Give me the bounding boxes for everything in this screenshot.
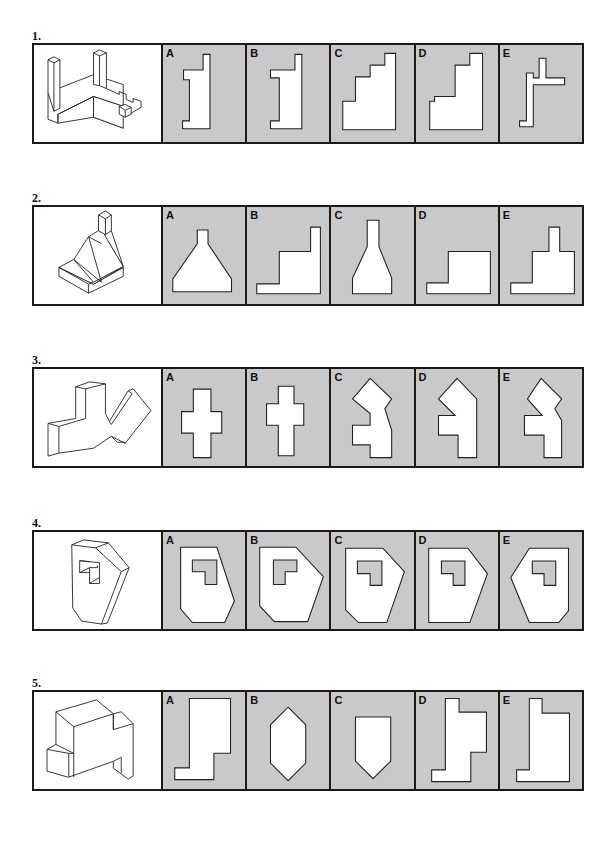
isometric-figure <box>34 207 161 304</box>
option-b[interactable]: B <box>247 369 331 466</box>
option-shape <box>331 532 413 629</box>
option-e[interactable]: E <box>500 532 582 629</box>
question-row: A B C D E <box>32 690 584 791</box>
option-shape <box>416 369 498 466</box>
option-shape <box>247 207 329 304</box>
question-row: A A B C D E <box>32 43 584 144</box>
option-shape <box>163 45 245 142</box>
isometric-figure <box>34 532 161 629</box>
isometric-figure-cell <box>34 692 163 789</box>
option-shape <box>416 692 498 789</box>
option-a[interactable]: A <box>163 369 247 466</box>
option-shape <box>416 532 498 629</box>
option-shape <box>500 692 582 789</box>
option-d[interactable]: D <box>416 45 500 142</box>
option-c[interactable]: C <box>331 369 415 466</box>
isometric-figure-cell <box>34 45 163 142</box>
isometric-figure <box>34 45 161 142</box>
option-shape <box>163 207 245 304</box>
option-shape <box>500 369 582 466</box>
isometric-figure <box>34 369 161 466</box>
option-shape <box>163 532 245 629</box>
option-shape <box>247 369 329 466</box>
option-shape <box>331 692 413 789</box>
option-b[interactable]: B <box>247 692 331 789</box>
option-c[interactable]: C <box>331 45 415 142</box>
isometric-figure-cell <box>34 369 163 466</box>
question-number: 3. <box>32 353 41 368</box>
option-a[interactable]: A <box>163 207 247 304</box>
option-a[interactable]: A <box>163 692 247 789</box>
option-b[interactable]: A B <box>247 45 331 142</box>
option-b[interactable]: B <box>247 207 331 304</box>
isometric-figure-cell <box>34 532 163 629</box>
option-a[interactable]: A <box>163 45 247 142</box>
question-row: A B C D E <box>32 367 584 468</box>
option-a[interactable]: A <box>163 532 247 629</box>
option-b[interactable]: B <box>247 532 331 629</box>
question-number: 5. <box>32 676 41 691</box>
question-number: 2. <box>32 191 41 206</box>
question-number: 1. <box>32 29 41 44</box>
option-shape <box>500 532 582 629</box>
question-row: A B C D <box>32 530 584 631</box>
option-shape <box>331 207 413 304</box>
option-c[interactable]: C <box>331 207 415 304</box>
isometric-figure <box>34 692 161 789</box>
option-c[interactable]: C <box>331 692 415 789</box>
option-shape <box>247 45 329 142</box>
option-d[interactable]: D <box>416 532 500 629</box>
option-e[interactable]: E <box>500 207 582 304</box>
question-row: A B C D E <box>32 205 584 306</box>
option-shape <box>416 45 498 142</box>
option-d[interactable]: D <box>416 692 500 789</box>
option-shape <box>331 45 413 142</box>
option-shape <box>416 207 498 304</box>
option-e[interactable]: E <box>500 369 582 466</box>
option-e[interactable]: E <box>500 692 582 789</box>
option-d[interactable]: D <box>416 369 500 466</box>
option-shape <box>500 207 582 304</box>
option-shape <box>247 692 329 789</box>
isometric-figure-cell <box>34 207 163 304</box>
option-c[interactable]: C <box>331 532 415 629</box>
option-d[interactable]: D <box>416 207 500 304</box>
option-e[interactable]: E <box>500 45 582 142</box>
option-shape <box>247 532 329 629</box>
option-shape <box>163 692 245 789</box>
question-number: 4. <box>32 516 41 531</box>
option-shape <box>163 369 245 466</box>
option-shape <box>500 45 582 142</box>
option-shape <box>331 369 413 466</box>
